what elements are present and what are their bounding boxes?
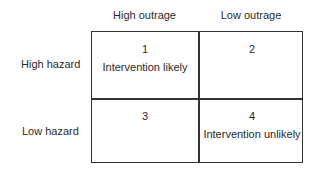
cell-1: 1 Intervention likely	[92, 32, 198, 98]
column-header-low-outrage: Low outrage	[198, 9, 304, 21]
cell-number: 4	[199, 110, 305, 122]
row-header-high-hazard: High hazard	[21, 58, 80, 70]
cell-note: Intervention likely	[92, 61, 198, 73]
row-header-low-hazard: Low hazard	[22, 125, 79, 137]
cell-number: 3	[92, 110, 198, 122]
cell-3: 3	[92, 99, 198, 165]
cell-4: 4 Intervention unlikely	[199, 99, 305, 165]
cell-number: 2	[199, 43, 305, 55]
cell-number: 1	[92, 43, 198, 55]
column-header-high-outrage: High outrage	[91, 9, 198, 21]
hazard-outrage-matrix: 1 Intervention likely 2 3 4 Intervention…	[91, 31, 303, 163]
cell-note: Intervention unlikely	[199, 128, 305, 140]
cell-2: 2	[199, 32, 305, 98]
